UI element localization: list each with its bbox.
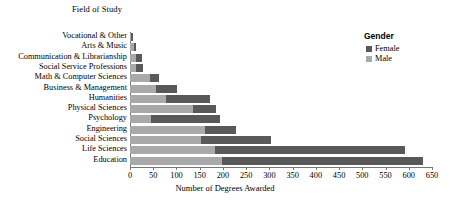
category-label: Social Service Professions <box>39 62 127 72</box>
bar-row: Social Sciences <box>130 136 432 144</box>
x-tick <box>223 167 224 170</box>
x-tick <box>293 167 294 170</box>
y-axis-title: Field of Study <box>72 4 122 14</box>
x-tick-label: 550 <box>379 171 391 180</box>
x-tick <box>200 167 201 170</box>
bar-segment-male <box>130 126 205 134</box>
category-label: Math & Computer Sciences <box>35 72 127 82</box>
legend-item: Female <box>366 44 399 53</box>
legend: Gender FemaleMale <box>364 31 399 64</box>
x-tick-label: 0 <box>128 171 132 180</box>
x-tick-label: 600 <box>403 171 415 180</box>
bar-segment-male <box>130 115 151 123</box>
category-label: Communication & Librarianship <box>18 52 127 62</box>
x-tick-label: 450 <box>333 171 345 180</box>
category-label: Humanities <box>89 93 127 103</box>
category-label: Engineering <box>86 124 127 134</box>
bar-row: Psychology <box>130 115 432 123</box>
x-tick-label: 300 <box>263 171 275 180</box>
bar-segment-female <box>150 74 158 82</box>
bar-segment-female <box>136 64 143 72</box>
category-label: Education <box>93 155 127 165</box>
bar-row: Business & Management <box>130 85 432 93</box>
bar-segment-female <box>166 95 210 103</box>
x-tick-label: 650 <box>426 171 438 180</box>
legend-items: FemaleMale <box>364 44 399 63</box>
bar-segment-male <box>130 74 150 82</box>
x-tick <box>269 167 270 170</box>
bar-segment-female <box>151 115 220 123</box>
bar-segment-female <box>201 136 271 144</box>
bar-row: Engineering <box>130 126 432 134</box>
category-label: Physical Sciences <box>68 103 127 113</box>
x-tick <box>246 167 247 170</box>
bar-row: Life Sciences <box>130 146 432 154</box>
bar-segment-female <box>136 54 143 62</box>
bar-segment-female <box>134 43 136 51</box>
legend-swatch <box>366 56 372 62</box>
bar-segment-female <box>156 85 177 93</box>
x-tick-label: 400 <box>310 171 322 180</box>
category-label: Psychology <box>88 113 127 123</box>
bar-segment-female <box>205 126 236 134</box>
bar-row: Humanities <box>130 95 432 103</box>
bar-row: Education <box>130 157 432 165</box>
x-tick <box>176 167 177 170</box>
x-tick <box>153 167 154 170</box>
bar-chart: Field of Study Vocational & OtherArts & … <box>0 0 450 209</box>
x-tick <box>130 167 131 170</box>
category-label: Arts & Music <box>81 41 127 51</box>
bar-segment-male <box>130 157 222 165</box>
x-tick <box>362 167 363 170</box>
x-tick-label: 200 <box>217 171 229 180</box>
x-axis-title: Number of Degrees Awarded <box>0 183 450 193</box>
category-label: Vocational & Other <box>62 31 127 41</box>
bar-segment-male <box>130 95 166 103</box>
x-axis-line <box>130 167 433 168</box>
x-tick-label: 250 <box>240 171 252 180</box>
legend-item: Male <box>366 54 399 63</box>
bar-segment-female <box>222 157 423 165</box>
bar-row: Math & Computer Sciences <box>130 74 432 82</box>
x-tick-label: 100 <box>170 171 182 180</box>
legend-label: Male <box>375 54 392 63</box>
x-tick-label: 350 <box>286 171 298 180</box>
category-label: Social Sciences <box>75 134 127 144</box>
x-tick <box>386 167 387 170</box>
x-tick-label: 150 <box>193 171 205 180</box>
bar-segment-female <box>131 33 133 41</box>
x-tick <box>339 167 340 170</box>
bar-segment-male <box>130 146 215 154</box>
bar-segment-male <box>130 85 156 93</box>
x-tick <box>409 167 410 170</box>
legend-swatch <box>366 46 372 52</box>
bar-row: Physical Sciences <box>130 105 432 113</box>
category-label: Life Sciences <box>82 144 127 154</box>
bar-row: Social Service Professions <box>130 64 432 72</box>
category-label: Business & Management <box>44 83 127 93</box>
legend-title: Gender <box>364 31 399 41</box>
x-tick <box>316 167 317 170</box>
bar-segment-female <box>215 146 405 154</box>
x-tick-label: 500 <box>356 171 368 180</box>
bar-segment-male <box>130 105 193 113</box>
bar-segment-female <box>193 105 216 113</box>
legend-label: Female <box>375 44 399 53</box>
x-tick-label: 50 <box>149 171 157 180</box>
bar-segment-male <box>130 136 201 144</box>
x-tick <box>432 167 433 170</box>
